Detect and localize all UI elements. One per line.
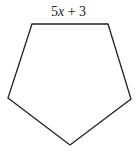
- pentagon-diagram: 5x + 3: [0, 0, 137, 152]
- pentagon-figure: [0, 0, 137, 152]
- top-side-length-label: 5x + 3: [0, 4, 137, 20]
- label-coefficient: 5: [51, 4, 58, 19]
- label-constant: + 3: [64, 4, 86, 19]
- pentagon-shape: [8, 24, 131, 145]
